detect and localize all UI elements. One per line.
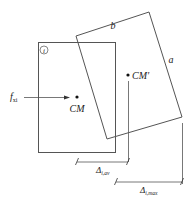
cm-prime-label: CM′ [132, 70, 150, 81]
cm-point [75, 95, 78, 98]
cm-prime-point [126, 73, 129, 76]
delta-av-label: Δi,av [95, 165, 110, 176]
force-arrowhead-icon [64, 96, 70, 100]
force-label: fxi [10, 91, 18, 103]
delta-av-tick-right-icon [127, 158, 130, 165]
side-a-label: a [169, 54, 174, 65]
story-index-label: i [43, 47, 45, 55]
delta-max-label: Δi,max [139, 185, 158, 196]
torsion-displacement-diagram: i b a fxi CM CM′ Δi,av Δi,max [0, 0, 194, 201]
delta-max-tick-left-icon [115, 178, 118, 185]
delta-av-tick-left-icon [76, 158, 79, 165]
cm-label: CM [70, 103, 86, 114]
side-b-label: b [111, 20, 116, 31]
diagram-svg: i b a fxi CM CM′ Δi,av Δi,max [0, 0, 194, 201]
delta-max-tick-right-icon [181, 178, 184, 185]
